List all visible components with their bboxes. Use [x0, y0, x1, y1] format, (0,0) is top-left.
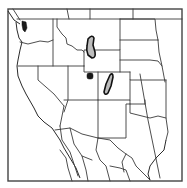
range-area-north [87, 36, 96, 58]
occurrence-point-utah [87, 73, 93, 79]
map-svg [0, 0, 187, 188]
map-frame [8, 9, 182, 181]
range-map [0, 0, 187, 188]
